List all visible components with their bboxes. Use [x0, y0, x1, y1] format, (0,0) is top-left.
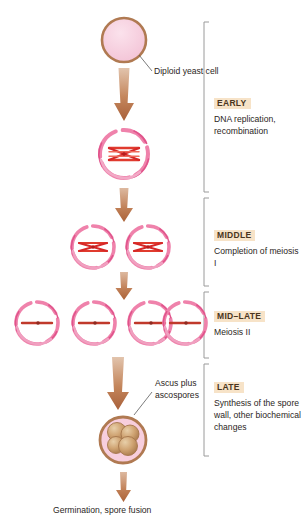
meiosis-one-cells: [63, 217, 179, 278]
diploid-leader-line: [139, 55, 152, 71]
callout-ascus-line1: Ascus plus: [155, 378, 197, 388]
callout-diploid-yeast-cell: Diploid yeast cell: [154, 66, 218, 78]
germination-caption: Germination, spore fusion: [53, 505, 151, 515]
ascus-leader-line: [134, 392, 152, 415]
callout-ascus-line2: ascospores: [155, 390, 199, 400]
arrow-5: [116, 472, 131, 502]
stage-mid-late-desc: Meiosis II: [214, 327, 302, 339]
callout-ascus: Ascus plus ascospores: [155, 378, 213, 401]
stage-middle-name: MIDDLE: [214, 230, 255, 242]
ascus-with-spores: [100, 417, 146, 463]
stage-late: LATE Synthesis of the spore wall, other …: [214, 376, 302, 434]
stage-mid-late: MID–LATE Meiosis II: [214, 305, 302, 339]
stage-middle-desc: Completion of meiosis I: [214, 246, 302, 270]
meiosis-two-cells: [7, 293, 216, 354]
stage-middle: MIDDLE Completion of meiosis I: [214, 224, 302, 270]
stage-early-desc: DNA replication, recombination: [214, 114, 302, 138]
stage-late-name: LATE: [214, 382, 244, 394]
stage-early: EARLY DNA replication, recombination: [214, 92, 302, 138]
arrow-1: [114, 68, 134, 121]
stage-late-desc: Synthesis of the spore wall, other bioch…: [214, 398, 302, 434]
stage-mid-late-name: MID–LATE: [214, 311, 265, 323]
arrow-2: [115, 188, 133, 222]
arrow-3: [116, 272, 133, 300]
arrow-4: [107, 357, 129, 410]
recombination-cell: [89, 119, 159, 189]
stage-early-name: EARLY: [214, 98, 251, 110]
sporulation-diagram: Diploid yeast cell Ascus plus ascospores…: [0, 0, 305, 524]
